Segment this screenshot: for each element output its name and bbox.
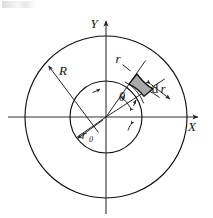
y-axis-label: Y <box>90 16 99 31</box>
dr-label-d: d <box>152 81 159 96</box>
inner-radius-subscript: 0 <box>89 135 93 144</box>
dr-label-group: d r <box>152 81 167 96</box>
dr-label-r: r <box>160 81 166 96</box>
axis-group <box>8 21 198 214</box>
figure-root: X Y R r 0 r θ d r <box>0 0 213 218</box>
theta-label: θ <box>119 89 126 104</box>
x-axis-label: X <box>187 119 197 134</box>
polar-annulus-diagram: X Y R r 0 r θ d r <box>0 0 213 218</box>
element-radius-leader <box>123 65 131 72</box>
outer-radius-label: R <box>58 63 67 78</box>
element-radius-label: r <box>115 51 121 66</box>
inner-radius-label: r <box>81 127 87 142</box>
outer-radius-leader <box>49 66 99 133</box>
reference-direction-arrows <box>93 89 137 130</box>
